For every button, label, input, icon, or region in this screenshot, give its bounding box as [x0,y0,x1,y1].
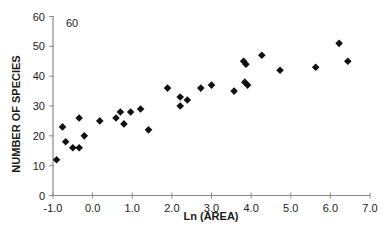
data-point-diamond [96,117,104,125]
data-point-diamond [75,144,83,152]
y-axis-title: NUMBER OF SPECIES [10,55,22,172]
data-point-diamond [197,84,205,92]
data-point-diamond [137,105,145,113]
data-point-diamond [230,87,238,95]
x-tick-label: 5.0 [283,202,298,214]
data-point-diamond [176,102,184,110]
y-tick-label: 20 [33,130,45,142]
y-tick-label: 0 [39,190,45,202]
x-tick-label: 6.0 [323,202,338,214]
data-point-diamond [120,120,128,128]
data-point-diamond [176,93,184,101]
data-point-diamond [145,126,153,134]
axes [53,17,370,196]
data-point-diamond [184,96,192,104]
data-point-diamond [208,81,216,89]
data-point-diamond [81,132,89,140]
x-tick-label: 7.0 [362,202,377,214]
y-tick-label: 60 [33,11,45,23]
data-point-diamond [258,51,266,59]
x-tick-label: 1.0 [125,202,140,214]
data-point-diamond [62,138,70,146]
data-point-diamond [127,108,135,116]
data-point-diamond [117,108,125,116]
x-tick-label: 4.0 [243,202,258,214]
data-point-diamond [276,66,284,74]
y-tick-label: 10 [33,160,45,172]
x-tick-label: -1.0 [44,202,63,214]
y-axis-ticks: 0102030405060 [33,11,54,202]
y-tick-label: 50 [33,40,45,52]
data-point-diamond [312,63,320,71]
data-point-diamond [335,40,343,48]
data-point-diamond [53,156,61,164]
data-point-diamond [59,123,67,131]
data-point-diamond [344,57,352,65]
data-point-diamond [164,84,172,92]
scatter-chart: -1.00.01.02.03.04.05.06.07.0 01020304050… [0,0,390,238]
x-tick-label: 2.0 [164,202,179,214]
y-tick-label: 40 [33,70,45,82]
data-points [53,40,352,164]
x-axis-title: Ln (AREA) [184,210,239,222]
data-point-diamond [112,114,120,122]
chart-annotation: 60 [66,17,78,29]
data-point-diamond [75,114,83,122]
x-tick-label: 0.0 [85,202,100,214]
y-tick-label: 30 [33,100,45,112]
